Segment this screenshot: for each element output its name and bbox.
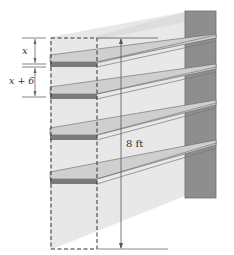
arrow-down-icon xyxy=(119,243,123,249)
arrow-up-icon xyxy=(34,39,37,44)
arrow-down-icon xyxy=(34,91,37,96)
bookshelf-diagram: 8 ft x x + 6 xyxy=(0,0,234,255)
second-gap-label: x + 6 xyxy=(9,75,34,86)
top-gap-label: x xyxy=(22,45,28,56)
total-height-label: 8 ft xyxy=(126,138,143,149)
arrow-down-icon xyxy=(34,58,37,63)
arrow-up-icon xyxy=(34,68,37,73)
